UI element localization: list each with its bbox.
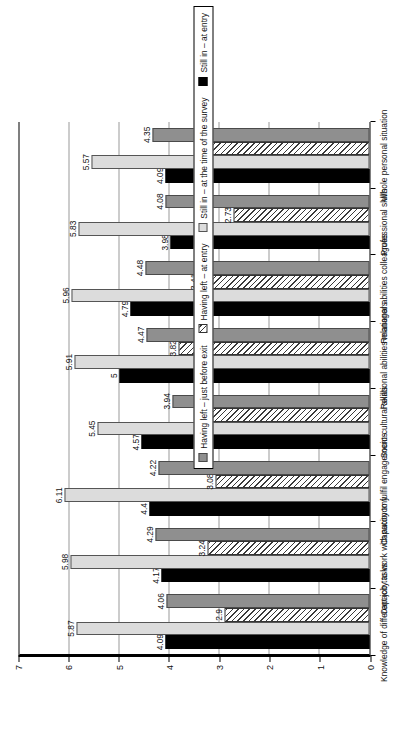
- bar[interactable]: 2.9: [224, 608, 369, 622]
- bar-value-label: 4.08: [154, 193, 164, 209]
- value-axis-tick: [219, 656, 220, 662]
- bar[interactable]: 3.29: [205, 142, 370, 156]
- bar[interactable]: 3.41: [199, 275, 370, 289]
- bar[interactable]: 5.83: [78, 222, 370, 236]
- bar-value-label: 5.98: [59, 554, 69, 570]
- bar-value-label: 2.73: [222, 207, 232, 223]
- category-axis-tick: [370, 455, 375, 456]
- bar-value-label: 6.11: [53, 487, 63, 503]
- bar-value-label: 4.06: [155, 593, 165, 609]
- legend-item[interactable]: Having left – at entry: [198, 244, 208, 334]
- bar-value-label: 5.96: [60, 287, 70, 303]
- value-axis-tick: [68, 656, 69, 662]
- bar[interactable]: 4.17: [161, 569, 370, 583]
- value-axis-tick-label: 2: [264, 665, 274, 695]
- bar[interactable]: 4.4: [149, 502, 369, 516]
- bar-value-label: 4.09: [154, 168, 164, 184]
- bar[interactable]: 4.22: [158, 461, 369, 475]
- legend-item[interactable]: Still in – at the time of the survey: [198, 98, 208, 232]
- bar-value-label: 3.82: [167, 340, 177, 356]
- value-axis-tick: [168, 656, 169, 662]
- value-axis-line: [18, 656, 370, 657]
- category-axis-tick: [370, 188, 375, 189]
- bar-value-label: 4.79: [119, 301, 129, 317]
- legend-label: Having left – just before exit: [198, 345, 208, 448]
- legend-swatch-icon: [198, 77, 207, 86]
- bar[interactable]: 4.35: [152, 128, 370, 142]
- bar-value-label: 5.83: [67, 221, 77, 237]
- category-axis-tick: [370, 255, 375, 256]
- bar-value-label: 3.24: [196, 540, 206, 556]
- bar-group: 4.095.872.94.06: [19, 594, 369, 649]
- bar[interactable]: 4.09: [165, 635, 370, 649]
- value-axis-tick: [18, 656, 19, 662]
- chart-figure: 01234567 4.095.872.94.064.175.983.244.29…: [0, 0, 405, 756]
- category-label: Whole personal situation: [378, 110, 388, 202]
- chart-canvas: 01234567 4.095.872.94.064.175.983.244.29…: [0, 0, 405, 756]
- bar[interactable]: 4.47: [146, 328, 370, 342]
- bar-value-label: 3.98: [159, 234, 169, 250]
- bar-value-label: 4.22: [147, 460, 157, 476]
- bar[interactable]: 4.79: [130, 302, 370, 316]
- bar-value-label: 5.87: [65, 620, 75, 636]
- legend-swatch-icon: [198, 223, 207, 232]
- bar-value-label: 4.17: [150, 567, 160, 583]
- value-axis-tick-label: 3: [214, 665, 224, 695]
- bar-value-label: 3.94: [161, 393, 171, 409]
- bar-value-label: 5: [108, 373, 118, 378]
- bar-value-label: 4.57: [130, 434, 140, 450]
- bar[interactable]: 4.06: [166, 594, 369, 608]
- bar[interactable]: 4.57: [141, 435, 370, 449]
- bar-value-label: 4.35: [141, 127, 151, 143]
- bar[interactable]: 3.17: [211, 408, 370, 422]
- category-axis-tick: [370, 522, 375, 523]
- category-axis-tick: [370, 321, 375, 322]
- bar[interactable]: 5.45: [97, 422, 369, 436]
- bar-value-label: 5.45: [86, 421, 96, 437]
- bar[interactable]: 5.98: [70, 555, 369, 569]
- bar-value-label: 4.48: [134, 260, 144, 276]
- bar[interactable]: 2.73: [233, 208, 370, 222]
- legend-item[interactable]: Still in – at entry: [198, 13, 208, 86]
- legend-swatch-icon: [198, 453, 207, 462]
- category-axis-tick: [370, 655, 375, 656]
- bar-group: 4.175.983.244.29: [19, 528, 369, 583]
- bar-value-label: 4.47: [135, 327, 145, 343]
- category-axis-tick: [370, 388, 375, 389]
- value-axis-tick: [319, 656, 320, 662]
- bar[interactable]: 5.91: [74, 355, 370, 369]
- value-axis-tick-label: 6: [63, 665, 73, 695]
- bar-group: 4.46.113.084.22: [19, 461, 369, 516]
- bar[interactable]: 6.11: [64, 488, 370, 502]
- legend-label: Still in – at the time of the survey: [198, 98, 208, 219]
- bar[interactable]: 5.87: [76, 622, 369, 636]
- category-axis-tick: [370, 121, 375, 122]
- bar[interactable]: 4.29: [155, 528, 370, 542]
- legend-swatch-icon: [198, 324, 207, 333]
- bar[interactable]: 4.48: [145, 261, 369, 275]
- bar[interactable]: 3.08: [215, 475, 369, 489]
- bar[interactable]: 5.57: [91, 155, 370, 169]
- bar-value-label: 5.91: [63, 354, 73, 370]
- value-axis: 01234567: [18, 656, 370, 696]
- value-axis-tick-label: 7: [13, 665, 23, 695]
- value-axis-tick-label: 0: [365, 665, 375, 695]
- bar[interactable]: 5: [119, 369, 369, 383]
- chart-legend: Having left – just before exitHaving lef…: [193, 6, 213, 469]
- value-axis-tick-label: 1: [315, 665, 325, 695]
- category-axis-tick: [370, 588, 375, 589]
- bar[interactable]: 3.24: [207, 541, 369, 555]
- value-axis-tick-label: 5: [114, 665, 124, 695]
- bar-value-label: 3.08: [204, 473, 214, 489]
- bar-value-label: 2.9: [213, 609, 223, 621]
- value-axis-tick: [269, 656, 270, 662]
- legend-label: Having left – at entry: [198, 244, 208, 321]
- bar[interactable]: 5.96: [71, 289, 369, 303]
- legend-label: Still in – at entry: [198, 13, 208, 73]
- bar-value-label: 5.57: [80, 154, 90, 170]
- plot-left-border: [19, 654, 369, 655]
- bar-value-label: 4.09: [154, 634, 164, 650]
- category-axis: Knowledge of different job tasksCapacity…: [370, 122, 405, 656]
- legend-item[interactable]: Having left – just before exit: [198, 345, 208, 461]
- bar-value-label: 4.29: [144, 526, 154, 542]
